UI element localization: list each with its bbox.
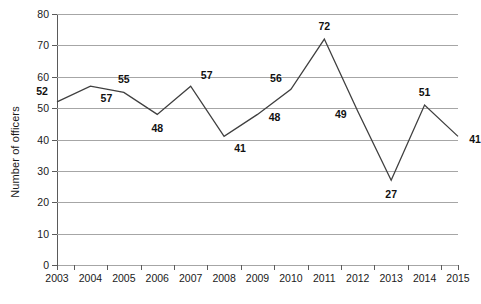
data-point-label: 55 <box>118 73 130 85</box>
x-tick-label: 2014 <box>413 272 436 284</box>
x-tick-label: 2003 <box>45 272 68 284</box>
data-point-label: 51 <box>419 86 431 98</box>
gridline <box>57 265 458 266</box>
x-tick-mark <box>374 265 375 270</box>
x-tick-label: 2004 <box>79 272 102 284</box>
data-point-label: 41 <box>469 133 481 145</box>
y-tick-label: 30 <box>37 165 49 177</box>
x-tick-mark <box>174 265 175 270</box>
data-point-label: 56 <box>270 72 282 84</box>
y-tick-label: 50 <box>37 102 49 114</box>
x-tick-label: 2007 <box>179 272 202 284</box>
x-tick-mark <box>57 265 58 270</box>
data-point-label: 72 <box>318 20 330 32</box>
x-tick-label: 2009 <box>246 272 269 284</box>
x-tick-mark <box>274 265 275 270</box>
x-tick-mark <box>107 265 108 270</box>
data-point-label: 52 <box>36 85 48 97</box>
y-tick-label: 0 <box>43 259 49 271</box>
x-tick-mark <box>74 265 75 270</box>
data-point-label: 57 <box>101 92 113 104</box>
x-tick-mark <box>141 265 142 270</box>
x-tick-label: 2006 <box>146 272 169 284</box>
data-point-label: 49 <box>335 108 347 120</box>
y-tick-label: 70 <box>37 39 49 51</box>
x-tick-label: 2012 <box>346 272 369 284</box>
y-tick-label: 10 <box>37 228 49 240</box>
x-tick-mark <box>441 265 442 270</box>
x-tick-label: 2008 <box>212 272 235 284</box>
x-tick-mark <box>207 265 208 270</box>
y-tick-label: 60 <box>37 71 49 83</box>
y-tick-label: 20 <box>37 196 49 208</box>
x-tick-label: 2010 <box>279 272 302 284</box>
x-tick-mark <box>458 265 459 270</box>
x-tick-label: 2013 <box>379 272 402 284</box>
data-point-label: 48 <box>269 111 281 123</box>
x-tick-label: 2011 <box>313 272 336 284</box>
y-axis-title: Number of officers <box>0 0 30 304</box>
series-polyline <box>57 39 458 180</box>
data-point-label: 57 <box>201 69 213 81</box>
x-tick-mark <box>341 265 342 270</box>
x-tick-mark <box>408 265 409 270</box>
y-tick-label: 80 <box>37 8 49 20</box>
data-point-label: 41 <box>234 142 246 154</box>
series-line-number-of-officers <box>57 14 458 265</box>
x-tick-mark <box>308 265 309 270</box>
data-point-label: 27 <box>385 188 397 200</box>
x-tick-label: 2005 <box>112 272 135 284</box>
y-tick-label: 40 <box>37 134 49 146</box>
x-tick-mark <box>241 265 242 270</box>
data-point-label: 48 <box>151 122 163 134</box>
x-tick-label: 2015 <box>446 272 469 284</box>
